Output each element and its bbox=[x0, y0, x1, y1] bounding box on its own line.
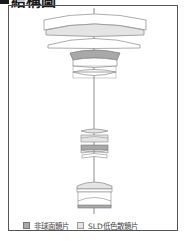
legend: 非球面鏡片 SLD低色散鏡片 bbox=[23, 220, 146, 231]
legend-label-sld: SLD低色散鏡片 bbox=[88, 220, 138, 231]
legend-item-sld: SLD低色散鏡片 bbox=[77, 220, 138, 231]
aspherical-swatch-icon bbox=[23, 222, 30, 229]
lens-element-2 bbox=[48, 39, 140, 49]
legend-item-aspherical: 非球面鏡片 bbox=[23, 220, 69, 231]
lens-element-3-aspherical bbox=[70, 50, 120, 68]
lens-group-middle bbox=[81, 129, 108, 158]
lens-group-rear bbox=[77, 182, 112, 208]
lens-structure-diagram bbox=[0, 0, 187, 244]
sld-swatch-icon bbox=[77, 222, 84, 229]
lens-element-1 bbox=[44, 14, 146, 37]
legend-label-aspherical: 非球面鏡片 bbox=[34, 220, 69, 231]
